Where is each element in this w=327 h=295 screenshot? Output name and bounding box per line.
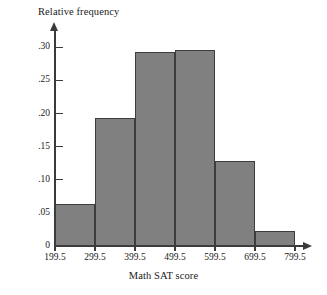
x-axis-title: Math SAT score — [0, 270, 327, 281]
y-axis-tick-label: .25 — [38, 75, 50, 85]
y-axis-tick-label: 0 — [45, 241, 50, 251]
y-axis-tick-label: .10 — [38, 175, 50, 185]
histogram-bar — [55, 204, 95, 246]
x-axis-tick — [94, 246, 95, 251]
y-axis-tick-label: .15 — [38, 142, 50, 152]
x-axis-tick — [294, 246, 295, 251]
x-axis-arrow-icon — [303, 242, 312, 250]
x-axis-tick — [254, 246, 255, 251]
y-axis-tick-label: .05 — [38, 208, 50, 218]
histogram-bar — [255, 231, 295, 246]
y-axis-tick-label: .30 — [38, 42, 50, 52]
x-axis-tick — [134, 246, 135, 251]
y-axis-arrow-icon — [50, 22, 58, 31]
histogram-bar — [135, 52, 175, 246]
histogram-chart: Relative frequency 0.05.10.15.20.25.30 1… — [0, 0, 327, 295]
y-axis-tick-label: .20 — [38, 109, 50, 119]
histogram-bar — [215, 161, 255, 246]
histogram-bar — [175, 50, 215, 246]
y-axis-title: Relative frequency — [38, 6, 119, 17]
x-axis-tick — [54, 246, 55, 251]
x-axis-tick — [214, 246, 215, 251]
x-axis-tick — [174, 246, 175, 251]
x-axis-tick-label: 799.5 — [272, 252, 318, 262]
histogram-bar — [95, 118, 135, 246]
plot-area — [55, 34, 295, 246]
